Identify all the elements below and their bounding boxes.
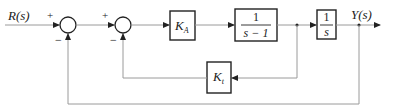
summing-junction-2 [115,17,131,33]
sum1-plus-sign: + [47,9,53,21]
plant-numerator: 1 [253,10,259,24]
integrator-numerator: 1 [324,10,330,24]
sum1-minus-sign: − [55,33,62,47]
summing-junction-1 [60,17,76,33]
integrator-denominator: s [324,25,329,39]
sum2-minus-sign: − [110,33,117,47]
output-label: Y(s) [351,7,372,22]
block-diagram: R(s) + − + − KA 1 s − 1 1 s Y(s) Kt [0,0,397,109]
sum2-plus-sign: + [102,9,108,21]
plant-denominator: s − 1 [244,26,269,40]
input-label: R(s) [7,8,30,23]
